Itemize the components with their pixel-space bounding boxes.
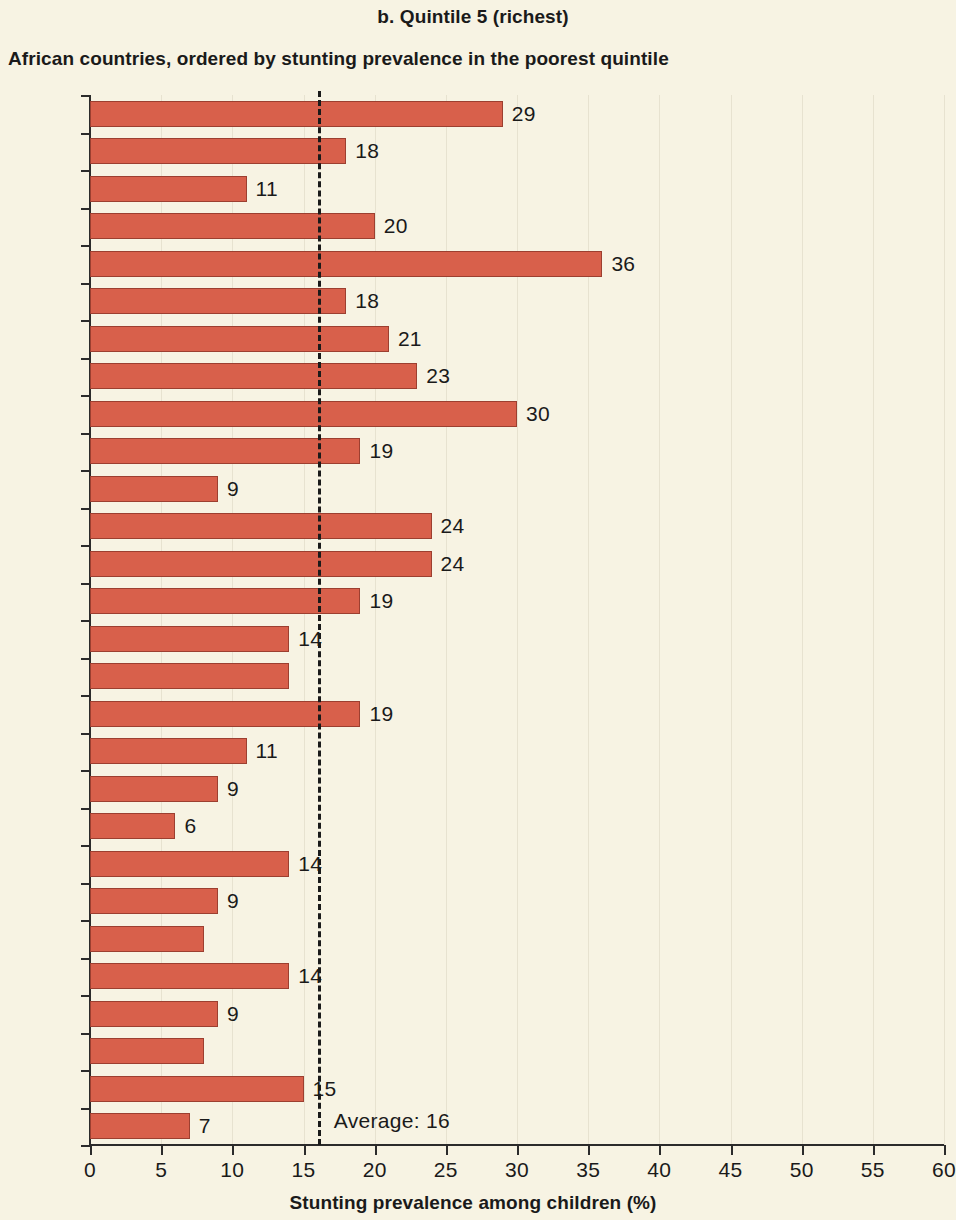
x-axis-tick-label: 25 [434,1158,458,1182]
y-axis-tick [81,133,90,135]
bar-row: 9 [90,776,944,802]
bar-row: 14 [90,963,944,989]
bar-value-label: 9 [227,1002,239,1026]
x-axis-tick [944,1145,946,1155]
x-axis-tick-label: 50 [790,1158,814,1182]
bar-gnq[interactable] [90,251,602,277]
bar-value-label: 9 [227,889,239,913]
bar-eth[interactable] [90,363,417,389]
bar-row: 30 [90,401,944,427]
x-axis-tick-label: 55 [861,1158,885,1182]
x-axis-tick-label: 45 [719,1158,743,1182]
bar-value-label: 20 [384,214,408,238]
gridline [944,95,945,1145]
y-axis-tick [81,695,90,697]
bar-value-label: 19 [369,439,393,463]
bar-ken[interactable] [90,663,289,689]
bar-value-label: 24 [441,552,465,576]
y-axis-tick [81,508,90,510]
bar-value-label: 18 [355,289,379,313]
x-axis-tick [232,1145,234,1155]
bar-row [90,926,944,952]
y-axis-tick [81,883,90,885]
y-axis-tick [81,920,90,922]
bar-value-label: 11 [256,177,278,201]
bar-row [90,1038,944,1064]
bar-civ[interactable] [90,926,204,952]
bar-value-label: 21 [398,327,422,351]
bar-row: 11 [90,176,944,202]
bar-value-label: 19 [369,702,393,726]
bar-row [90,663,944,689]
y-axis-tick [81,1033,90,1035]
y-axis-tick [81,358,90,360]
bar-row: 9 [90,1001,944,1027]
bar-stp[interactable] [90,1113,190,1139]
bar-row: 23 [90,363,944,389]
y-axis-tick [81,845,90,847]
x-axis-tick-label: 20 [363,1158,387,1182]
bar-ago[interactable] [90,213,375,239]
bar-value-label: 6 [184,814,196,838]
bar-row: 14 [90,626,944,652]
bar-row: 18 [90,288,944,314]
bar-lso[interactable] [90,288,346,314]
bar-row: 18 [90,138,944,164]
x-axis-tick-label: 10 [220,1158,244,1182]
x-axis-tick-label: 40 [647,1158,671,1182]
bar-gmb[interactable] [90,1076,304,1102]
bar-cmr[interactable] [90,476,218,502]
bar-rwa[interactable] [90,176,247,202]
bar-row: 21 [90,326,944,352]
y-axis-tick [81,958,90,960]
x-axis-tick [446,1145,448,1155]
bar-gab[interactable] [90,813,175,839]
y-axis-tick [81,545,90,547]
bar-eri[interactable] [90,101,503,127]
bar-swz[interactable] [90,888,218,914]
x-axis-title: Stunting prevalence among children (%) [0,1192,946,1214]
bar-value-label: 30 [526,402,550,426]
bar-tgo[interactable] [90,738,247,764]
bar-value-label: 9 [227,477,239,501]
y-axis-tick [81,433,90,435]
y-axis-tick [81,770,90,772]
bar-cod[interactable] [90,138,346,164]
bar-value-label: 19 [369,589,393,613]
bar-value-label: 11 [256,739,278,763]
bar-value-label: 36 [611,252,635,276]
bar-zwe[interactable] [90,963,289,989]
bar-row: 19 [90,701,944,727]
y-axis-tick [81,170,90,172]
bar-row: 15 [90,1076,944,1102]
y-axis-tick [81,470,90,472]
y-axis-tick [81,245,90,247]
bar-row: 9 [90,476,944,502]
x-axis-tick [517,1145,519,1155]
bar-com[interactable] [90,551,432,577]
bar-value-label: 7 [199,1114,211,1138]
bar-sdn[interactable] [90,326,389,352]
bar-row: 14 [90,851,944,877]
x-axis-tick [161,1145,163,1155]
x-axis-tick-label: 60 [932,1158,956,1182]
y-axis-tick [81,395,90,397]
bar-value-label: 9 [227,777,239,801]
bar-nam[interactable] [90,776,218,802]
bar-gha[interactable] [90,1038,204,1064]
x-axis-tick-label: 35 [576,1158,600,1182]
bar-mdg[interactable] [90,401,517,427]
x-axis-tick [659,1145,661,1155]
bar-lbr[interactable] [90,626,289,652]
y-axis-tick [81,583,90,585]
bar-cog[interactable] [90,851,289,877]
x-axis-tick-label: 5 [155,1158,167,1182]
bar-value-label: 23 [426,364,450,388]
bar-value-label: 15 [313,1077,337,1101]
y-axis-tick [81,1145,90,1147]
y-axis-tick [81,1070,90,1072]
bar-sen[interactable] [90,1001,218,1027]
x-axis-tick [731,1145,733,1155]
bar-zmb[interactable] [90,513,432,539]
